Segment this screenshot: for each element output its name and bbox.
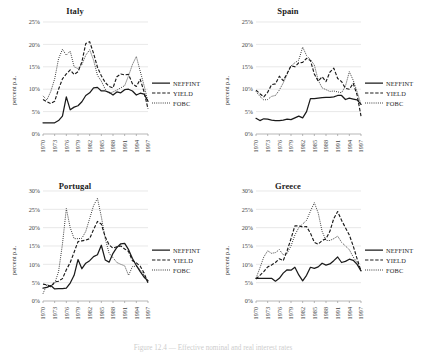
legend-item-yield[interactable]: YIELD (152, 255, 200, 265)
x-tick-label: 1982 (299, 307, 306, 319)
y-tick-label: 5% (32, 108, 40, 115)
x-tick-label: 1994 (133, 140, 140, 152)
legend-label: FOBC (173, 267, 190, 274)
x-tick-label: 1973 (264, 140, 271, 152)
legend-italy: NEFFINTYIELDFOBC (152, 78, 200, 108)
y-tick-label: 15% (242, 63, 253, 70)
series-line-yield (43, 221, 148, 286)
series-line-fobc (256, 47, 361, 104)
legend-swatch-solid-icon (365, 246, 383, 254)
x-tick-label: 1979 (74, 140, 81, 152)
y-tick-label: 10% (242, 85, 253, 92)
x-tick-label: 1991 (121, 307, 128, 319)
x-tick-label: 1988 (322, 140, 329, 152)
series-line-fobc (256, 203, 361, 279)
x-tick-label: 1976 (276, 140, 283, 152)
y-tick-label: 20% (29, 224, 40, 231)
legend-label: FOBC (173, 100, 190, 107)
x-tick-label: 1985 (98, 307, 105, 319)
x-tick-label: 1970 (252, 140, 259, 152)
x-tick-label: 1997 (357, 307, 364, 319)
x-tick-label: 1997 (357, 140, 364, 152)
legend-greece: NEFFINTYIELDFOBC (365, 245, 413, 275)
x-tick-label: 1988 (322, 307, 329, 319)
x-tick-label: 1973 (51, 307, 58, 319)
legend-spain: NEFFINTYIELDFOBC (365, 78, 413, 108)
legend-swatch-solid-icon (152, 79, 170, 87)
y-tick-label: 20% (242, 224, 253, 231)
x-tick-label: 1991 (334, 307, 341, 319)
legend-item-neffint[interactable]: NEFFINT (365, 78, 413, 88)
x-tick-label: 1991 (334, 140, 341, 152)
y-tick-label: 30% (29, 187, 40, 194)
legend-swatch-dashed-icon (365, 256, 383, 264)
x-tick-label: 1976 (276, 307, 283, 319)
chart-panel-italy: Italy percent p.a. 0%5%10%15%20%25%19701… (0, 0, 213, 175)
y-tick-label: 5% (32, 279, 40, 286)
y-tick-label: 25% (29, 206, 40, 213)
legend-item-fobc[interactable]: FOBC (365, 265, 413, 275)
x-tick-label: 1994 (133, 307, 140, 319)
figure-caption: Figure 12.4 — Effective nominal and real… (0, 343, 426, 352)
legend-label: FOBC (386, 267, 403, 274)
chart-panel-portugal: Portugal percent p.a. 0%5%10%15%20%25%30… (0, 175, 213, 335)
y-tick-label: 5% (245, 108, 253, 115)
x-tick-label: 1985 (311, 140, 318, 152)
legend-label: NEFFINT (173, 247, 200, 254)
legend-label: YIELD (386, 90, 406, 97)
x-tick-label: 1988 (109, 307, 116, 319)
series-line-neffint (43, 87, 148, 122)
x-tick-label: 1997 (144, 307, 151, 319)
legend-item-yield[interactable]: YIELD (152, 88, 200, 98)
legend-item-fobc[interactable]: FOBC (365, 98, 413, 108)
y-tick-label: 5% (245, 279, 253, 286)
y-tick-label: 15% (29, 242, 40, 249)
legend-swatch-dotted-icon (365, 99, 383, 107)
y-tick-label: 0% (32, 130, 40, 137)
legend-item-neffint[interactable]: NEFFINT (365, 245, 413, 255)
series-line-neffint (256, 257, 361, 281)
y-tick-label: 0% (245, 130, 253, 137)
legend-label: YIELD (173, 90, 193, 97)
legend-label: NEFFINT (386, 80, 413, 87)
legend-portugal: NEFFINTYIELDFOBC (152, 245, 200, 275)
x-tick-label: 1973 (51, 140, 58, 152)
y-tick-label: 25% (242, 18, 253, 25)
legend-item-neffint[interactable]: NEFFINT (152, 78, 200, 88)
y-tick-label: 10% (29, 261, 40, 268)
x-tick-label: 1979 (74, 307, 81, 319)
y-tick-label: 15% (242, 242, 253, 249)
x-tick-label: 1994 (346, 140, 353, 152)
legend-swatch-dashed-icon (152, 89, 170, 97)
legend-item-fobc[interactable]: FOBC (152, 265, 200, 275)
legend-item-yield[interactable]: YIELD (365, 88, 413, 98)
legend-item-neffint[interactable]: NEFFINT (152, 245, 200, 255)
x-tick-label: 1997 (144, 140, 151, 152)
x-tick-label: 1985 (98, 140, 105, 152)
legend-swatch-dotted-icon (152, 99, 170, 107)
x-tick-label: 1970 (252, 307, 259, 319)
legend-item-yield[interactable]: YIELD (365, 255, 413, 265)
y-tick-label: 25% (29, 18, 40, 25)
y-tick-label: 20% (29, 41, 40, 48)
y-tick-label: 15% (29, 63, 40, 70)
x-tick-label: 1991 (121, 140, 128, 152)
legend-label: YIELD (173, 257, 193, 264)
legend-item-fobc[interactable]: FOBC (152, 98, 200, 108)
legend-swatch-dotted-icon (365, 266, 383, 274)
legend-swatch-solid-icon (152, 246, 170, 254)
x-tick-label: 1973 (264, 307, 271, 319)
legend-label: NEFFINT (386, 247, 413, 254)
x-tick-label: 1979 (287, 307, 294, 319)
legend-swatch-solid-icon (365, 79, 383, 87)
series-line-fobc (43, 49, 148, 101)
x-tick-label: 1982 (86, 307, 93, 319)
x-tick-label: 1970 (39, 307, 46, 319)
series-line-yield (43, 42, 148, 109)
y-tick-label: 0% (245, 297, 253, 304)
chart-panel-greece: Greece percent p.a. 0%5%10%15%20%25%30%1… (213, 175, 426, 335)
y-tick-label: 10% (242, 261, 253, 268)
x-tick-label: 1970 (39, 140, 46, 152)
legend-label: FOBC (386, 100, 403, 107)
